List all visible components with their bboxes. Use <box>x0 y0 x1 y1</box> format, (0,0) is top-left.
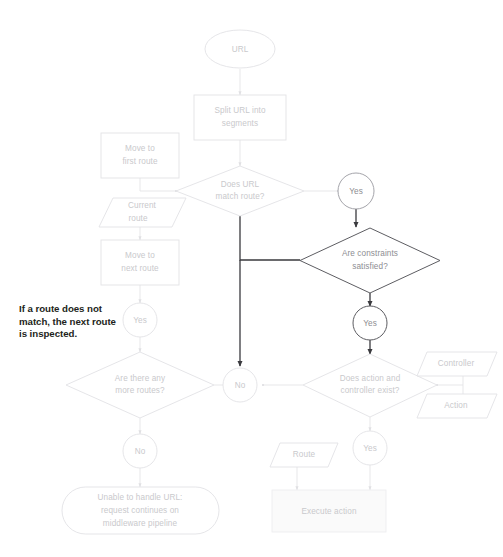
node-url-start-label: URL <box>232 45 249 54</box>
node-no-center-label: No <box>235 381 246 390</box>
node-are-constraints-line2: satisfied? <box>352 262 388 271</box>
node-yes-constraints[interactable]: Yes <box>353 306 387 340</box>
edge-match-bottom-to-constraints-left <box>240 216 300 260</box>
node-does-url-match[interactable]: Does URL match route? <box>176 166 304 216</box>
edge-firstroute-to-match <box>140 178 176 191</box>
node-controller[interactable]: Controller <box>417 352 497 376</box>
node-move-next-route-line1: Move to <box>125 251 155 260</box>
node-are-more-routes-line1: Are there any <box>115 374 166 383</box>
annotation-note: If a route does not match, the next rout… <box>19 303 159 341</box>
node-are-constraints[interactable]: Are constraints satisfied? <box>300 228 440 293</box>
node-execute-action-label: Execute action <box>301 507 356 516</box>
node-action[interactable]: Action <box>417 394 497 418</box>
node-unable-handle-line2: request continues on <box>101 506 179 515</box>
node-does-action-line2: controller exist? <box>340 386 399 395</box>
node-are-more-routes-line2: more routes? <box>115 386 165 395</box>
node-split-url[interactable]: Split URL into segments <box>194 95 286 140</box>
node-current-route-line1: Current <box>128 201 157 210</box>
node-move-next-route-line2: next route <box>121 264 159 273</box>
node-unable-handle-line3: middleware pipeline <box>103 519 178 528</box>
node-are-constraints-line1: Are constraints <box>342 249 398 258</box>
node-split-url-line2: segments <box>222 119 258 128</box>
node-no-center[interactable]: No <box>223 368 257 402</box>
node-yes-action-label: Yes <box>363 444 377 453</box>
node-are-more-routes[interactable]: Are there any more routes? <box>66 352 214 418</box>
node-unable-handle[interactable]: Unable to handle URL: request continues … <box>62 487 219 534</box>
node-no-more-routes-label: No <box>135 447 146 456</box>
node-move-first-route[interactable]: Move to first route <box>101 133 179 178</box>
node-route-data-label: Route <box>293 450 316 459</box>
node-does-action-line1: Does action and <box>340 374 401 383</box>
node-does-action[interactable]: Does action and controller exist? <box>303 354 437 417</box>
node-does-url-match-line2: match route? <box>216 192 265 201</box>
node-current-route-line2: route <box>128 214 148 223</box>
node-url-start[interactable]: URL <box>205 30 275 68</box>
node-does-url-match-line1: Does URL <box>221 180 260 189</box>
node-move-next-route[interactable]: Move to next route <box>101 240 179 285</box>
connector-layer <box>140 69 463 490</box>
node-controller-label: Controller <box>438 359 475 368</box>
flowchart-diagram: URL Split URL into segments Move to firs… <box>0 0 503 557</box>
node-yes-match-label: Yes <box>349 187 363 196</box>
node-split-url-line1: Split URL into <box>214 106 265 115</box>
node-no-more-routes[interactable]: No <box>123 434 157 468</box>
node-route-data[interactable]: Route <box>270 443 338 467</box>
node-yes-action[interactable]: Yes <box>353 431 387 465</box>
node-yes-constraints-label: Yes <box>363 319 377 328</box>
node-move-first-route-line2: first route <box>122 157 158 166</box>
node-move-first-route-line1: Move to <box>125 144 155 153</box>
node-action-label: Action <box>444 401 468 410</box>
node-execute-action[interactable]: Execute action <box>272 490 386 532</box>
node-current-route[interactable]: Current route <box>99 198 186 227</box>
flowchart-canvas: URL Split URL into segments Move to firs… <box>0 0 503 557</box>
node-yes-match[interactable]: Yes <box>338 173 374 209</box>
node-unable-handle-line1: Unable to handle URL: <box>98 493 183 502</box>
